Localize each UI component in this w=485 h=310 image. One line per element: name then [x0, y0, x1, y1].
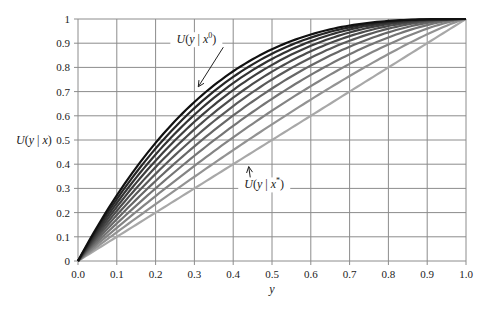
x-axis-ticks: 0.00.10.20.30.40.50.60.70.80.91.0	[71, 268, 473, 280]
x-tick-label: 0.1	[110, 268, 124, 280]
y-tick-label: 0.7	[56, 86, 70, 98]
x-tick-label: 0.2	[149, 268, 163, 280]
annotation-top-curve: U(y | x0)	[170, 31, 223, 87]
x-tick-label: 0.4	[226, 268, 240, 280]
x-tick-label: 0.5	[265, 268, 279, 280]
x-axis-label: y	[268, 282, 275, 296]
y-tick-label: 0.4	[56, 158, 70, 170]
x-tick-label: 0.6	[304, 268, 318, 280]
x-tick-label: 0.0	[71, 268, 85, 280]
y-tick-label: 0.2	[56, 207, 70, 219]
y-axis-label: U(y | x)	[16, 133, 52, 147]
y-tick-label: 0.5	[56, 134, 70, 146]
y-tick-label: 0.6	[56, 110, 70, 122]
y-tick-label: 0.9	[56, 37, 70, 49]
arrowhead-icon	[198, 80, 204, 87]
y-tick-label: 1	[65, 13, 71, 25]
y-tick-label: 0	[65, 255, 71, 267]
y-tick-label: 0.8	[56, 61, 70, 73]
x-tick-label: 0.8	[382, 268, 396, 280]
x-tick-label: 0.9	[420, 268, 434, 280]
y-tick-label: 0.1	[56, 231, 70, 243]
y-axis-ticks: 00.10.20.30.40.50.60.70.80.91	[56, 13, 70, 267]
y-tick-label: 0.3	[56, 182, 70, 194]
x-tick-label: 0.7	[343, 268, 357, 280]
annotation-bottom-curve: U(y | x*)	[238, 167, 290, 193]
chart: 0.00.10.20.30.40.50.60.70.80.91.0 00.10.…	[0, 0, 485, 310]
x-tick-label: 1.0	[459, 268, 473, 280]
x-tick-label: 0.3	[188, 268, 202, 280]
